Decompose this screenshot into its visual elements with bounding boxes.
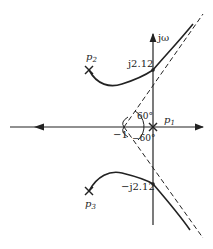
centroid-label: −1 <box>113 129 128 140</box>
root-locus-diagram: jω j2.12 −j2.12 p1 p2 p3 −1 60° −60° <box>0 0 213 249</box>
crossing-label-lower: −j2.12 <box>121 181 155 192</box>
left-arrow-icon <box>34 124 44 131</box>
pole-p2-x-icon <box>85 66 93 74</box>
crossing-label-upper: j2.12 <box>127 58 153 69</box>
pole-label-p2: p2 <box>86 51 97 64</box>
pole-label-p1: p1 <box>164 114 175 127</box>
asymptotes <box>124 14 203 238</box>
pole-label-p3: p3 <box>85 198 96 211</box>
imag-axis-label: jω <box>157 32 169 43</box>
branch-upper <box>89 24 193 86</box>
pole-p3-x-icon <box>85 187 93 195</box>
asymptote-upper <box>124 14 203 127</box>
angle-label-lower: −60° <box>132 133 156 143</box>
angle-label-upper: 60° <box>137 111 153 121</box>
